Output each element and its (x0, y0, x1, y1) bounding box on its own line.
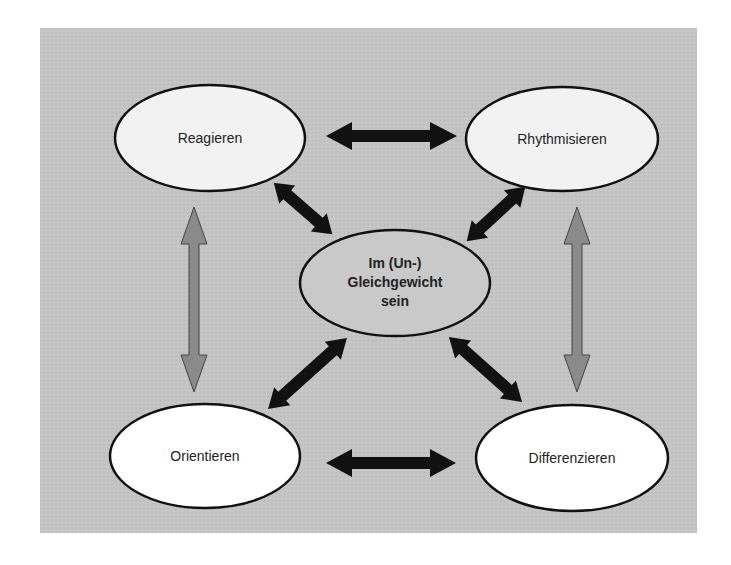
node-label-reagieren: Reagieren (178, 130, 243, 146)
diagram-canvas: Reagieren Rhythmisieren Orientieren Diff… (0, 0, 731, 565)
center-label-line3: sein (381, 293, 409, 309)
node-label-orientieren: Orientieren (170, 448, 239, 464)
node-differenzieren: Differenzieren (476, 405, 668, 511)
node-center: Im (Un-) Gleichgewicht sein (300, 230, 490, 336)
center-label-line2: Gleichgewicht (348, 274, 443, 290)
node-rhythmisieren: Rhythmisieren (466, 87, 658, 191)
node-orientieren: Orientieren (110, 404, 300, 508)
node-label-differenzieren: Differenzieren (529, 450, 616, 466)
node-reagieren: Reagieren (115, 85, 305, 191)
center-label-line1: Im (Un-) (369, 255, 422, 271)
node-label-rhythmisieren: Rhythmisieren (517, 131, 606, 147)
